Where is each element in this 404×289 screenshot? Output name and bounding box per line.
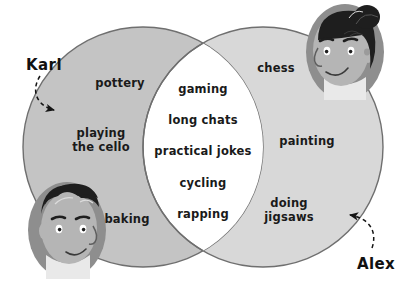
intersection-item-rapping: rapping [177, 207, 229, 221]
intersection-item-practical-jokes: practical jokes [154, 144, 251, 158]
left-item-pottery: pottery [95, 76, 145, 90]
portrait-alex [306, 4, 384, 100]
right-item-painting: painting [279, 134, 335, 148]
annotation-label-alex: Alex [357, 255, 395, 273]
left-item-playing-the-cello: playingthe cello [72, 126, 130, 155]
right-item-chess: chess [257, 61, 295, 75]
intersection-item-long-chats: long chats [168, 113, 237, 127]
intersection-item-gaming: gaming [178, 82, 228, 96]
intersection-item-cycling: cycling [180, 176, 227, 190]
annotation-label-karl: Karl [26, 56, 62, 74]
venn-diagram-page: pottery playingthe cello baking gaming l… [0, 0, 404, 289]
left-item-baking: baking [104, 212, 149, 226]
right-item-doing-jigsaws: doingjigsaws [264, 196, 314, 225]
portrait-karl [28, 182, 106, 279]
